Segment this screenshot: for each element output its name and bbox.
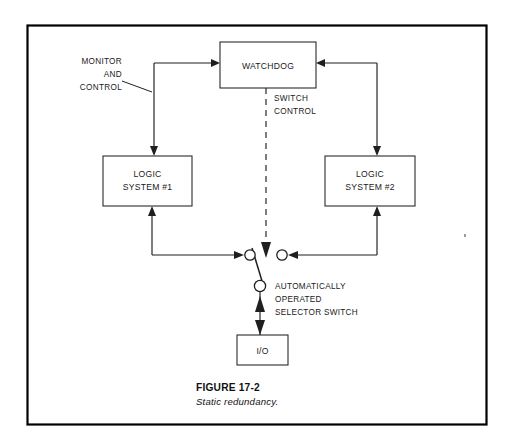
monitor-annotation-line3: CONTROL — [80, 83, 122, 92]
logic-system-2-box[interactable] — [325, 156, 415, 206]
arrow-into-logic2-top — [373, 146, 381, 156]
watchdog-label: WATCHDOG — [242, 61, 294, 71]
static-redundancy-diagram: WATCHDOG LOGIC SYSTEM #1 LOGIC SYSTEM #2… — [0, 0, 513, 447]
scan-artifact — [464, 234, 466, 237]
figure-caption-subtitle: Static redundancy. — [196, 396, 278, 407]
monitor-annotation-line1: MONITOR — [81, 57, 122, 66]
switch-contact-right[interactable] — [277, 250, 287, 260]
arrow-into-logic1-top — [150, 146, 158, 156]
figure-caption-title: FIGURE 17-2 — [196, 382, 260, 393]
arrow-into-watchdog-left — [211, 59, 220, 67]
figure-page: WATCHDOG LOGIC SYSTEM #1 LOGIC SYSTEM #2… — [0, 0, 513, 447]
selector-annotation-line3: SELECTOR SWITCH — [275, 308, 358, 317]
arrow-into-contact-left — [234, 251, 244, 259]
arrow-into-logic2-bottom — [373, 206, 381, 216]
logic-system-1-box[interactable] — [103, 156, 192, 206]
switch-contact-left[interactable] — [245, 250, 255, 260]
logic-system-2-label-line2: SYSTEM #2 — [345, 182, 395, 192]
io-label: I/O — [256, 346, 268, 356]
monitor-annotation-line2: AND — [104, 70, 122, 79]
arrow-switch-control — [261, 242, 271, 258]
logic-system-2-label-line1: LOGIC — [356, 169, 384, 179]
switch-control-annotation-line1: SWITCH — [274, 94, 308, 103]
switch-pivot[interactable] — [254, 280, 265, 291]
arrow-down-into-io — [255, 320, 265, 335]
monitor-leader-line — [122, 81, 152, 92]
selector-annotation-line1: AUTOMATICALLY — [275, 282, 346, 291]
arrow-into-logic1-bottom — [148, 206, 156, 216]
arrow-up-into-pivot — [255, 296, 265, 312]
logic-system-1-label-line2: SYSTEM #1 — [123, 182, 173, 192]
logic-system-1-label-line1: LOGIC — [134, 169, 162, 179]
arrow-into-watchdog-right — [316, 59, 325, 67]
arrow-into-contact-right — [288, 251, 298, 259]
switch-control-annotation-line2: CONTROL — [274, 107, 316, 116]
selector-annotation-line2: OPERATED — [275, 295, 322, 304]
